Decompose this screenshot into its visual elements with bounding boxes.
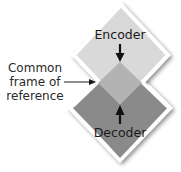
common-frame-label-line-1: Common xyxy=(2,61,68,75)
decoder-label: Decoder xyxy=(94,125,147,140)
common-frame-label-line-2: frame of xyxy=(2,75,68,89)
common-frame-label: Common frame of reference xyxy=(2,61,68,103)
encoder-label: Encoder xyxy=(94,27,146,42)
common-frame-label-line-3: reference xyxy=(2,89,68,103)
